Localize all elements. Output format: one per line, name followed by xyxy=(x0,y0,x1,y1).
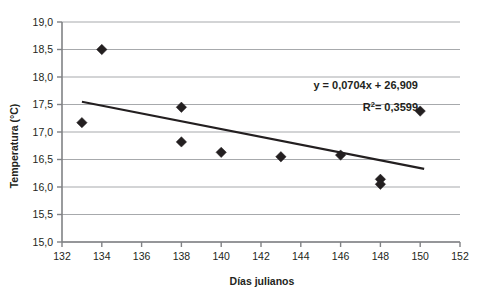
chart-container: 15,015,516,016,517,017,518,018,519,0 132… xyxy=(0,0,483,292)
data-point xyxy=(176,137,186,147)
y-tick-label-19,0: 19,0 xyxy=(33,16,54,28)
x-tick-label-134: 134 xyxy=(93,250,111,262)
y-tick-label-18,0: 18,0 xyxy=(33,71,54,83)
y-tick-labels-group: 15,015,516,016,517,017,518,018,519,0 xyxy=(33,16,54,248)
r-squared-label: R xyxy=(363,101,371,113)
data-point xyxy=(276,152,286,162)
data-points-group xyxy=(77,44,426,189)
x-tick-labels-group: 132134136138140142144146148150152 xyxy=(53,250,469,262)
r-squared-value: = 0,3599 xyxy=(375,101,418,113)
data-point xyxy=(77,117,87,127)
x-tick-label-142: 142 xyxy=(252,250,270,262)
x-tick-label-146: 146 xyxy=(332,250,350,262)
r-squared-annotation: R2= 0,3599 xyxy=(363,100,418,113)
gridlines-group xyxy=(62,22,460,242)
y-tick-label-16,5: 16,5 xyxy=(33,153,54,165)
x-tick-label-152: 152 xyxy=(451,250,469,262)
x-tick-label-150: 150 xyxy=(411,250,429,262)
x-axis-title: Días julianos xyxy=(230,275,295,287)
y-axis-title: Temperatura (°C) xyxy=(8,104,20,189)
y-tick-label-18,5: 18,5 xyxy=(33,43,54,55)
y-tick-label-15,5: 15,5 xyxy=(33,208,54,220)
scatter-chart: 15,015,516,016,517,017,518,018,519,0 132… xyxy=(0,0,483,292)
y-tick-label-16,0: 16,0 xyxy=(33,181,54,193)
y-tick-label-15,0: 15,0 xyxy=(33,236,54,248)
x-tick-label-132: 132 xyxy=(53,250,71,262)
y-tick-label-17,0: 17,0 xyxy=(33,126,54,138)
x-tick-label-138: 138 xyxy=(173,250,191,262)
trend-equation-annotation: y = 0,0704x + 26,909 xyxy=(313,79,418,91)
x-tick-label-144: 144 xyxy=(292,250,310,262)
data-point xyxy=(176,102,186,112)
y-tick-label-17,5: 17,5 xyxy=(33,98,54,110)
trendline-group xyxy=(82,102,424,169)
x-tick-label-140: 140 xyxy=(212,250,230,262)
trendline xyxy=(82,102,424,169)
x-tick-label-148: 148 xyxy=(372,250,390,262)
x-tick-label-136: 136 xyxy=(133,250,151,262)
data-point xyxy=(216,147,226,157)
data-point xyxy=(97,44,107,54)
